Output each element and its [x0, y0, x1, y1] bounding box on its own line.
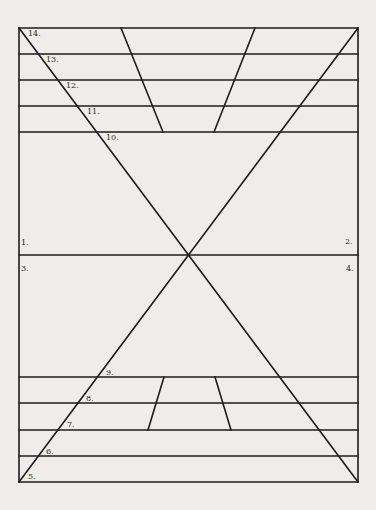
region-label: 1.	[21, 239, 29, 247]
region-label: 14.	[28, 30, 41, 38]
region-label: 7.	[67, 421, 75, 429]
region-label: 4.	[346, 265, 354, 273]
region-label: 6.	[46, 448, 54, 456]
region-label: 3.	[21, 265, 29, 273]
region-label: 9.	[106, 369, 114, 377]
region-label: 10.	[106, 134, 119, 142]
region-label: 13.	[46, 56, 59, 64]
region-label: 5.	[28, 473, 36, 481]
geometric-line-diagram	[0, 0, 376, 510]
region-label: 2.	[345, 238, 353, 246]
region-label: 12.	[66, 82, 79, 90]
region-label: 8.	[86, 395, 94, 403]
region-label: 11.	[87, 108, 100, 116]
diagram-canvas: 1.2.3.4.5.6.7.8.9.10.11.12.13.14.	[0, 0, 376, 510]
